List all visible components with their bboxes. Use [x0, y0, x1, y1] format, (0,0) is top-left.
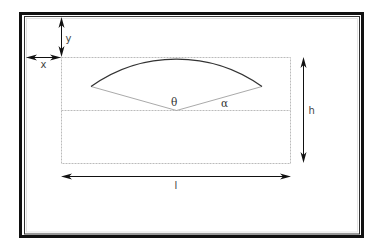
radius-line-left — [91, 87, 177, 111]
alpha-angle-label: α — [221, 97, 228, 109]
bounding-box — [26, 58, 291, 164]
segment-arc — [91, 59, 262, 86]
radius-line-right — [177, 87, 263, 111]
y-offset-arrow — [59, 17, 65, 57]
diagram-canvas: y x h l θ α — [0, 0, 379, 248]
length-label: l — [175, 180, 178, 191]
frame-outer-border — [21, 14, 363, 237]
theta-angle-label: θ — [171, 96, 177, 108]
length-arrow — [61, 174, 291, 180]
height-label: h — [309, 105, 315, 116]
picture-frame — [21, 14, 363, 237]
frame-inner-shadow-line — [27, 19, 358, 233]
y-offset-label: y — [66, 33, 72, 44]
frame-inner-border — [25, 17, 360, 235]
height-arrow — [301, 57, 307, 163]
x-offset-label: x — [41, 59, 47, 70]
